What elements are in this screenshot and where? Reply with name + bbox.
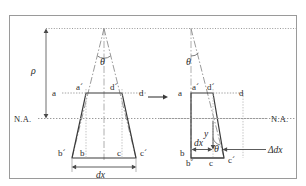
right-y-label: y: [203, 129, 209, 139]
left-theta-label: θ: [100, 56, 105, 67]
left-label-d-prime: d´: [110, 82, 118, 92]
left-dx-label: dx: [96, 170, 106, 180]
left-neutral-axis-label: N.A.: [14, 114, 31, 124]
left-label-b: b: [80, 148, 85, 158]
right-label-a-prime: a´: [192, 82, 199, 92]
left-label-d: d: [139, 88, 144, 98]
left-label-a: a: [52, 88, 56, 98]
right-label-b-prime: b´: [186, 158, 194, 168]
left-label-a-prime: a´: [76, 82, 83, 92]
left-label-c: c: [117, 148, 121, 158]
figure-container: ρ θ N.A. a a´ d´ d: [0, 0, 306, 186]
left-label-b-prime: b´: [58, 148, 66, 158]
right-label-b: b: [180, 148, 185, 158]
right-label-a: a: [178, 88, 182, 98]
right-delta-dx-label: Δdx: [267, 145, 283, 155]
right-label-d-prime: d´: [207, 82, 215, 92]
right-label-c-prime: c´: [228, 155, 235, 165]
right-theta-label-bottom: θ: [214, 143, 219, 154]
right-neutral-axis-label: N.A.: [271, 114, 288, 124]
right-label-d: d: [239, 88, 244, 98]
right-label-c: c: [209, 158, 213, 168]
right-dx-label: dx: [194, 138, 204, 148]
rho-label: ρ: [30, 65, 36, 76]
left-label-c-prime: c´: [140, 148, 147, 158]
beam-bending-diagram: ρ θ N.A. a a´ d´ d: [0, 0, 306, 186]
right-theta-label-top: θ: [186, 56, 191, 67]
